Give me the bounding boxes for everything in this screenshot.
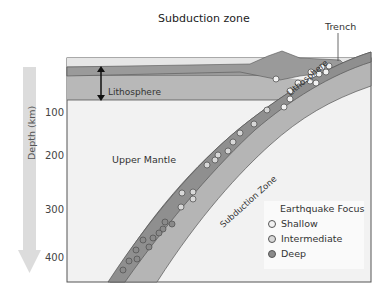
depth-axis-label: Depth (km) <box>26 106 37 160</box>
depth-tick-300: 300 <box>45 204 64 215</box>
legend-title: Earthquake Focus <box>280 203 365 214</box>
legend: Earthquake Focus Shallow Intermediate De… <box>264 201 364 269</box>
legend-label: Shallow <box>281 218 318 229</box>
lithosphere-label: Lithosphere <box>108 87 161 97</box>
upper-mantle-label: Upper Mantle <box>112 154 176 165</box>
legend-label: Deep <box>281 248 306 259</box>
depth-tick-400: 400 <box>45 252 64 263</box>
trench-label: Trench <box>325 21 356 32</box>
legend-label: Intermediate <box>281 233 342 244</box>
legend-item-intermediate: Intermediate <box>268 233 342 244</box>
depth-tick-200: 200 <box>45 150 64 161</box>
intermediate-dot-icon <box>268 235 276 243</box>
diagram-title: Subduction zone <box>158 12 250 25</box>
legend-item-shallow: Shallow <box>268 218 318 229</box>
depth-arrow-icon <box>18 67 41 273</box>
depth-tick-100: 100 <box>45 107 64 118</box>
shallow-dot-icon <box>268 220 276 228</box>
deep-dot-icon <box>268 250 276 258</box>
legend-item-deep: Deep <box>268 248 306 259</box>
